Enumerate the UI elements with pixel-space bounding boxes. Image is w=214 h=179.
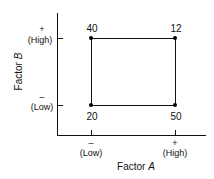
point-high-high bbox=[173, 36, 177, 40]
x-axis-title-text: Factor bbox=[117, 161, 145, 172]
point-low-high bbox=[89, 36, 93, 40]
x-low-label: (Low) bbox=[71, 148, 111, 158]
x-tick-high bbox=[175, 130, 176, 135]
point-low-low bbox=[89, 103, 93, 107]
design-square bbox=[91, 38, 176, 106]
value-low-low: 20 bbox=[82, 112, 102, 122]
y-axis-title-text: Factor bbox=[13, 62, 24, 90]
x-low-sign: – bbox=[71, 138, 111, 148]
x-axis-var: A bbox=[148, 161, 155, 172]
y-low-sign: – bbox=[22, 92, 62, 102]
y-low-label: (Low) bbox=[22, 102, 62, 112]
x-tick-low bbox=[91, 130, 92, 135]
value-low-high: 40 bbox=[82, 24, 102, 34]
value-high-low: 50 bbox=[166, 112, 186, 122]
y-axis-title: Factor B bbox=[13, 47, 24, 97]
x-high-sign: + bbox=[155, 138, 195, 148]
x-axis bbox=[57, 135, 206, 136]
y-axis-var: B bbox=[13, 53, 24, 60]
value-high-high: 12 bbox=[166, 24, 186, 34]
x-axis-title: Factor A bbox=[106, 162, 166, 172]
y-high-sign: + bbox=[22, 24, 62, 34]
x-high-label: (High) bbox=[155, 148, 195, 158]
y-high-label: (High) bbox=[20, 35, 60, 45]
point-high-low bbox=[173, 103, 177, 107]
